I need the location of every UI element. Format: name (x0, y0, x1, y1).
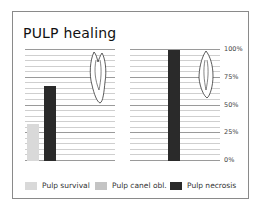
legend-item-survival: Pulp survival (25, 181, 90, 190)
y-tick-label: 25% (224, 128, 238, 136)
tooth-icon (88, 50, 108, 105)
y-tick-label: 75% (224, 73, 238, 81)
bar (44, 86, 56, 161)
tooth-icon (196, 50, 216, 100)
legend-label: Pulp necrosis (187, 181, 236, 190)
y-tick-label: 0% (224, 156, 234, 164)
legend-swatch (25, 182, 37, 190)
y-tick-label: 100% (224, 45, 243, 53)
legend-swatch (170, 182, 182, 190)
bar (168, 50, 180, 161)
legend-label: Pulp survival (42, 181, 90, 190)
gridline (25, 110, 115, 111)
legend-item-canal-obliteration: Pulp canel obl. (95, 181, 167, 190)
legend-swatch (95, 182, 107, 190)
bar (27, 124, 39, 161)
y-tick-label: 50% (224, 101, 238, 109)
gridline (25, 121, 115, 122)
chart-title: PULP healing (23, 25, 116, 41)
gridline (25, 116, 115, 117)
legend-label: Pulp canel obl. (112, 181, 167, 190)
legend-item-necrosis: Pulp necrosis (170, 181, 236, 190)
